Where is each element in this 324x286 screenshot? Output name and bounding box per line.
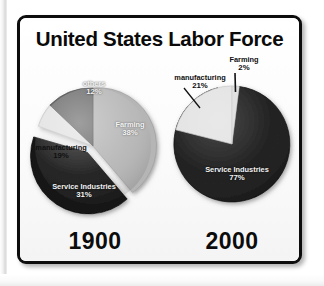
pie-2000-gloss [174, 86, 290, 202]
pie-1900-gloss [35, 88, 151, 204]
pie-2000-svg [162, 58, 302, 228]
year-label-2000: 2000 [162, 228, 302, 255]
year-label-1900: 1900 [25, 228, 165, 255]
pie-chart-1900: others 12% Farming 38% manufacturing 19%… [25, 58, 165, 263]
scan-edge-bottom [0, 274, 324, 286]
chart-title: United States Labor Force [20, 27, 299, 51]
pie-chart-2000: Farming 2% manufacturing 21% Service Ind… [162, 58, 302, 263]
scanned-page: United States Labor Force [0, 0, 324, 286]
pie-1900-svg [25, 58, 165, 228]
figure-frame: United States Labor Force [17, 15, 302, 264]
leader-line-farming-2000 [235, 73, 236, 92]
scan-edge-left [0, 0, 7, 286]
